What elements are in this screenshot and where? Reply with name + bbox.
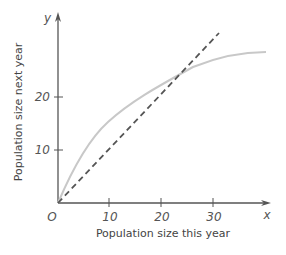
y-axis-variable: y: [43, 11, 52, 25]
y-axis-title: Population size next year: [12, 42, 25, 181]
x-tick-label-20: 20: [154, 210, 170, 224]
x-tick-label-30: 30: [206, 210, 222, 224]
x-tick-label-10: 10: [102, 210, 118, 224]
y-tick-label-20: 20: [35, 90, 51, 104]
x-axis-title: Population size this year: [96, 227, 231, 240]
chart: 20 10 10 20 30 O y x Population size thi…: [0, 0, 286, 255]
x-axis-variable: x: [262, 208, 271, 222]
replacement-line: [58, 33, 219, 203]
growth-curve: [58, 52, 266, 203]
y-tick-label-10: 10: [35, 143, 51, 157]
origin-label: O: [47, 210, 56, 224]
